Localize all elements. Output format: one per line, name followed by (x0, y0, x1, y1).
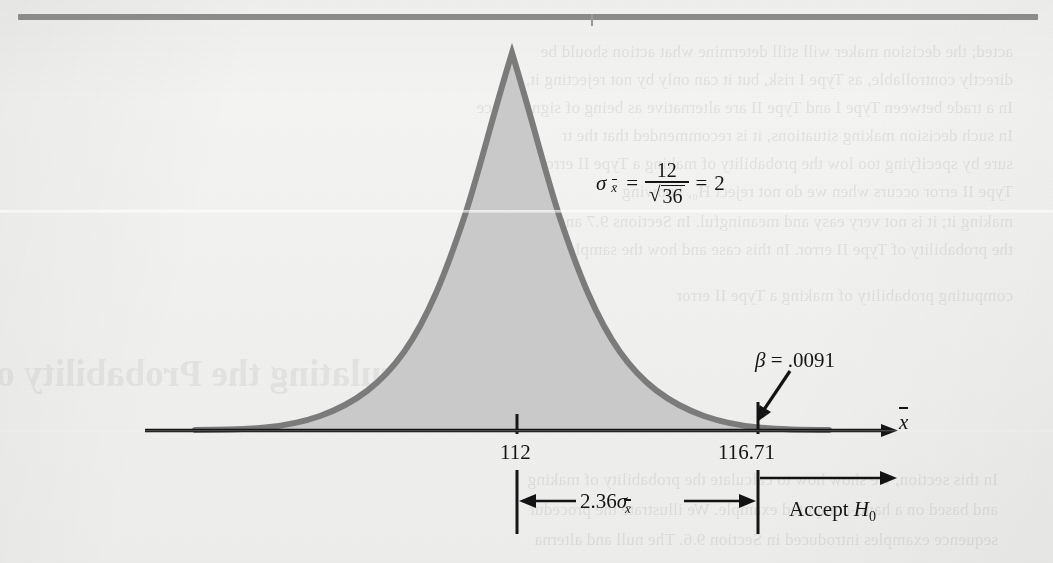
span-distance-label: 2.36σx̄ (573, 489, 640, 514)
hypothesis-symbol: H (854, 497, 869, 521)
x-axis-arrowhead (881, 424, 898, 437)
tick-label-112: 112 (500, 440, 531, 465)
beta-pointer-arrow (757, 371, 790, 422)
tick-label-116-71: 116.71 (718, 440, 775, 465)
accept-region-arrow (760, 471, 897, 485)
formula-result: 2 (714, 171, 725, 196)
span-coefficient: 2.36 (580, 489, 617, 513)
normal-curve-fill (195, 53, 829, 430)
beta-symbol: β (755, 348, 765, 372)
standard-error-formula: σx̄ = 12 √ 36 = 2 (596, 160, 725, 207)
span-sigma-subscript: x̄ (625, 501, 631, 517)
accept-text: Accept (789, 497, 854, 521)
beta-annotation: β = .0091 (755, 348, 835, 373)
span-arrow-left (519, 494, 576, 508)
formula-equals-2: = (696, 171, 708, 196)
sigma-subscript-xbar: x̄ (611, 180, 617, 196)
x-bar-symbol: x (899, 410, 908, 435)
span-arrow-right (684, 494, 756, 508)
fraction-numerator: 12 (652, 160, 682, 181)
x-axis-label: x (899, 410, 908, 435)
figure-page: acted; the decision maker will still det… (0, 0, 1053, 563)
sigma-symbol: σ (596, 171, 606, 196)
hypothesis-subscript: 0 (869, 509, 876, 524)
accept-region-label: Accept H0 (789, 497, 876, 525)
fraction: 12 √ 36 (645, 160, 689, 207)
chart-canvas (0, 0, 1053, 563)
square-root: √ 36 (649, 184, 685, 206)
beta-value: .0091 (788, 348, 835, 372)
formula-equals-1: = (626, 171, 638, 196)
radical-sign: √ (649, 184, 661, 206)
fraction-denominator: √ 36 (645, 183, 689, 206)
beta-equals: = (771, 348, 783, 372)
radicand: 36 (661, 185, 685, 206)
distribution-chart (0, 0, 1053, 563)
